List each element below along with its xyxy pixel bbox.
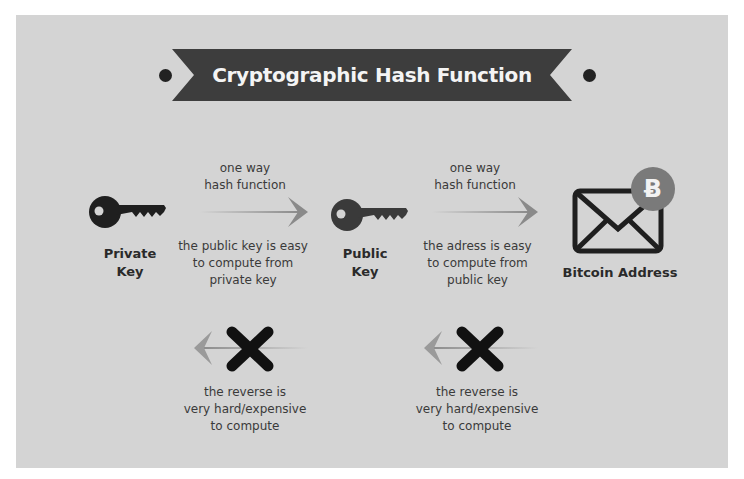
banner-left-dot [159,69,172,82]
banner-right-dot [583,69,596,82]
public-key-label-line1: Public [325,245,405,263]
forward-arrow-2-caption-bottom: the adress is easy to compute from publi… [410,238,545,289]
blocked-x-icon [456,326,504,372]
caption-line: private key [168,272,318,289]
bitcoin-badge: Ƀ [631,167,675,211]
caption-line: the reverse is [170,384,320,401]
diagram-title: Cryptographic Hash Function [172,49,572,101]
forward-arrow-2-caption-top: one way hash function [420,160,530,194]
key-icon [88,195,168,229]
public-key-label-line2: Key [325,263,405,281]
caption-line: the public key is easy [168,238,318,255]
caption-line: hash function [420,177,530,194]
key-icon [330,198,410,232]
caption-line: to compute from [410,255,545,272]
bitcoin-address-label: Bitcoin Address [555,264,685,282]
forward-arrow-1 [200,195,310,229]
caption-line: public key [410,272,545,289]
blocked-x-icon [226,326,274,372]
forward-arrow-2 [432,195,540,229]
private-key-node: Private Key [85,195,175,290]
bitcoin-icon: Ƀ [644,175,662,203]
caption-line: one way [420,160,530,177]
caption-line: the adress is easy [410,238,545,255]
private-key-label-line2: Key [85,263,175,281]
caption-line: very hard/expensive [402,401,552,418]
bitcoin-address-node: Ƀ Bitcoin Address [555,165,685,290]
forward-arrow-1-caption-bottom: the public key is easy to compute from p… [168,238,318,289]
reverse-arrow-2-caption: the reverse is very hard/expensive to co… [402,384,552,435]
reverse-arrow-1-caption: the reverse is very hard/expensive to co… [170,384,320,435]
private-key-label-line1: Private [85,245,175,263]
caption-line: hash function [180,177,310,194]
caption-line: to compute [170,418,320,435]
title-banner: Cryptographic Hash Function [172,49,572,101]
public-key-node: Public Key [325,198,415,293]
caption-line: the reverse is [402,384,552,401]
caption-line: to compute [402,418,552,435]
caption-line: one way [180,160,310,177]
forward-arrow-1-caption-top: one way hash function [180,160,310,194]
caption-line: very hard/expensive [170,401,320,418]
caption-line: to compute from [168,255,318,272]
